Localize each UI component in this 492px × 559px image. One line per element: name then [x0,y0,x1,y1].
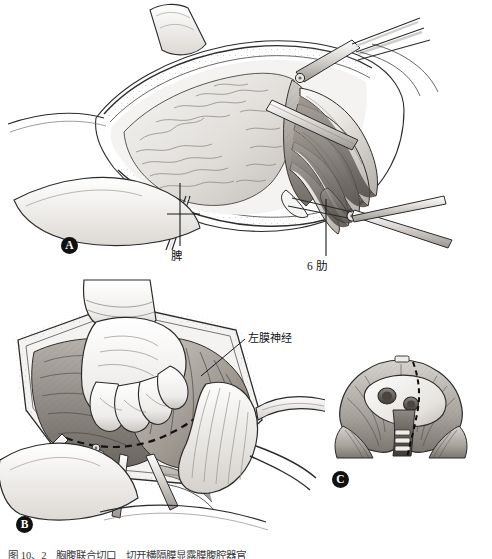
figure-page: 脾 6 肋 左膜神经 A B C 图 10、2 胸腹联合切口 切开横隔膜显露膜腹… [0,0,492,559]
figure-caption: 图 10、2 胸腹联合切口 切开横隔膜显露膜腹腔器官 [8,550,484,559]
callout-label-rib6: 6 肋 [307,260,327,273]
panel-letter-b: B [16,516,33,533]
caval-lumen [382,392,392,401]
panel-b-svg [0,278,330,538]
callout-label-spleen: 脾 [171,250,182,263]
panel-letter-c: C [332,471,349,488]
callout-label-phrenic-nerve: 左膜神经 [248,332,292,344]
surgeon-gloved-hand [82,280,188,432]
gauze-pack-top [150,4,206,54]
panel-letter-a: A [61,237,78,254]
panel-a-svg [0,0,492,275]
inset-top-tag [395,356,409,362]
esophageal-lumen [407,400,415,407]
retractor-arm-right [250,397,328,490]
panel-c-svg [325,352,477,462]
panel-c-illustration [325,352,477,462]
vertebral-segments [395,430,410,451]
panel-b-illustration [0,278,330,538]
panel-a-illustration [0,0,492,275]
